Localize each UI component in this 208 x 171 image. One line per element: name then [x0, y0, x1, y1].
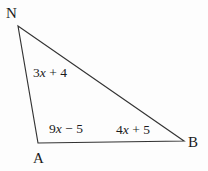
side-label-ab-left: 9x − 5 [49, 122, 83, 136]
triangle-figure: N A B 3x + 4 9x − 5 4x + 5 [0, 0, 208, 171]
side-ab-right-operator: + [129, 122, 143, 137]
side-ab-left-constant: 5 [76, 121, 83, 136]
side-ab-right-coefficient: 4 [116, 122, 123, 137]
triangle-shape [0, 0, 208, 171]
side-label-na: 3x + 4 [33, 66, 67, 80]
side-ab-right-constant: 5 [143, 122, 150, 137]
vertex-label-b: B [188, 135, 198, 150]
side-na-operator: + [46, 65, 60, 80]
side-na-coefficient: 3 [33, 65, 40, 80]
side-na-constant: 4 [60, 65, 67, 80]
side-label-ab-right: 4x + 5 [116, 123, 150, 137]
vertex-label-n: N [6, 6, 17, 21]
vertex-label-a: A [33, 151, 44, 166]
triangle-outline [18, 26, 184, 143]
side-ab-left-coefficient: 9 [49, 121, 56, 136]
side-ab-left-operator: − [62, 121, 76, 136]
